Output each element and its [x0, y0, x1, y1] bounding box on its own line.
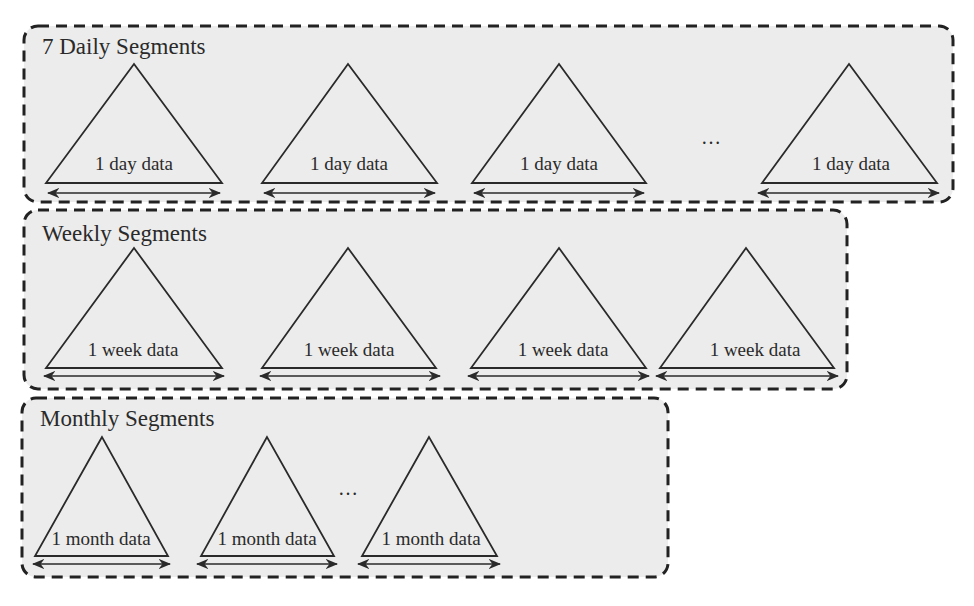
triangle-label: 1 week data — [88, 339, 179, 361]
triangle-label: 1 week data — [710, 339, 801, 361]
ellipsis: … — [701, 126, 721, 149]
triangle-label: 1 month data — [51, 528, 150, 550]
triangle-label: 1 week data — [518, 339, 609, 361]
triangle-label: 1 month data — [217, 528, 316, 550]
ellipsis: … — [338, 477, 358, 500]
weekly-segments-title: Weekly Segments — [42, 221, 207, 247]
triangle-label: 1 day data — [95, 153, 173, 175]
monthly-segments-title: Monthly Segments — [40, 406, 214, 432]
triangle-label: 1 day data — [812, 153, 890, 175]
triangle-label: 1 day data — [520, 153, 598, 175]
segmentation-diagram: 7 Daily Segments 1 day data 1 day data 1… — [0, 0, 974, 606]
diagram-shapes — [0, 0, 974, 606]
triangle-label: 1 month data — [381, 528, 480, 550]
triangle-label: 1 day data — [310, 153, 388, 175]
triangle-label: 1 week data — [304, 339, 395, 361]
daily-segments-title: 7 Daily Segments — [42, 34, 206, 60]
